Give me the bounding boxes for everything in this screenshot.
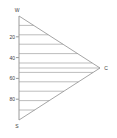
tick-label-80: 80 — [9, 96, 15, 102]
figure-container: 20 40 60 80 W C S — [0, 0, 117, 138]
triangle-edge-w-to-c — [19, 16, 100, 68]
triangle-edge-c-to-s — [19, 68, 100, 120]
vertex-label-w: W — [15, 7, 20, 13]
tick-label-group: 20 40 60 80 — [9, 34, 15, 102]
vertex-label-c: C — [104, 65, 108, 71]
hatch-fill-group — [19, 25, 100, 110]
vertex-label-s: S — [15, 123, 19, 129]
tick-label-20: 20 — [9, 34, 15, 40]
tick-label-40: 40 — [9, 55, 15, 61]
tick-label-60: 60 — [9, 75, 15, 81]
triangle-diagram-svg: 20 40 60 80 W C S — [0, 0, 117, 138]
